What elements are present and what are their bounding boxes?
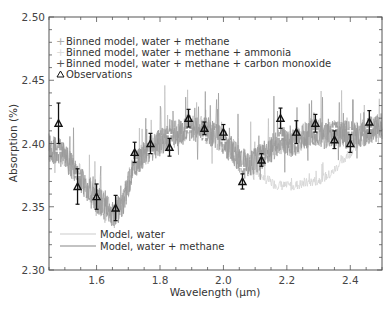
- x-tick-labels: 1.61.82.02.22.4: [88, 274, 359, 286]
- y-tick-label: 2.50: [22, 11, 45, 23]
- x-tick-label: 2.2: [279, 274, 296, 286]
- legend-label: Binned model, water + methane + carbon m…: [66, 58, 331, 69]
- legend-label: Binned model, water + methane + ammonia: [66, 47, 291, 58]
- x-axis-title: Wavelength (μm): [170, 286, 261, 298]
- legend-marker-cross-dark: +: [56, 57, 65, 70]
- legend-top: + Binned model, water + methane + Binned…: [56, 35, 331, 80]
- x-tick-label: 1.8: [152, 274, 169, 286]
- y-tick-label: 2.40: [22, 138, 45, 150]
- model-water-methane-line: [49, 92, 382, 226]
- x-tick-label: 1.6: [88, 274, 105, 286]
- legend-label: Binned model, water + methane: [66, 36, 230, 47]
- absorption-chart: 1.61.82.02.22.4 2.302.352.402.452.50 Wav…: [0, 0, 391, 312]
- legend-label: Model, water: [100, 229, 166, 240]
- model-water-methane-series: [49, 85, 382, 228]
- x-tick-label: 2.4: [342, 274, 359, 286]
- y-tick-label: 2.30: [22, 264, 45, 276]
- legend-label: Observations: [66, 69, 132, 80]
- triangle-icon: [57, 71, 64, 77]
- x-tick-label: 2.0: [215, 274, 232, 286]
- y-tick-labels: 2.302.352.402.452.50: [22, 11, 45, 276]
- legend-label: Model, water + methane: [100, 241, 224, 252]
- legend-bottom: Model, water Model, water + methane: [60, 229, 224, 252]
- y-axis-title: Absorption (%): [7, 104, 19, 182]
- y-tick-label: 2.35: [22, 201, 45, 213]
- y-tick-label: 2.45: [22, 74, 45, 86]
